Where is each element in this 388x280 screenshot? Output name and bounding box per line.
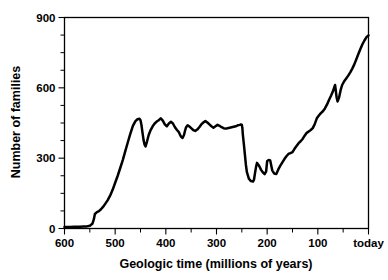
x-axis-title: Geologic time (millions of years) <box>119 257 312 271</box>
x-axis: 600500400300200100today <box>55 229 385 249</box>
diversity-curve <box>65 35 369 227</box>
y-axis: 0300600900 <box>36 12 64 235</box>
y-axis-tick-label: 900 <box>36 12 55 24</box>
x-axis-tick-label: 300 <box>207 237 226 249</box>
y-axis-tick-label: 300 <box>36 152 55 164</box>
x-axis-tick-label: 600 <box>55 237 74 249</box>
x-axis-tick-label: 400 <box>156 237 175 249</box>
x-axis-tick-label: 200 <box>258 237 277 249</box>
x-axis-tick-label: 100 <box>308 237 327 249</box>
data-series-group <box>65 35 369 227</box>
y-axis-tick-label: 0 <box>49 223 55 235</box>
x-axis-tick-label: today <box>353 237 384 249</box>
chart-figure: 0300600900 600500400300200100today Numbe… <box>0 0 388 280</box>
y-axis-title: Number of families <box>9 66 23 179</box>
x-axis-tick-label: 500 <box>106 237 125 249</box>
chart-svg: 0300600900 600500400300200100today Numbe… <box>0 0 388 280</box>
y-axis-tick-label: 600 <box>36 82 55 94</box>
